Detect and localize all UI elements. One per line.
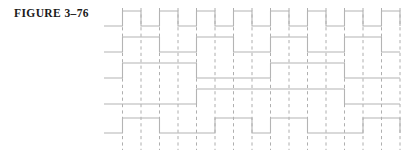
waveform-q3 (104, 118, 400, 133)
figure-container: FIGURE 3–76 (0, 0, 418, 156)
waveform-q1 (104, 63, 400, 78)
gridline-group (123, 8, 401, 150)
timing-diagram (0, 0, 418, 156)
waveform-q0 (104, 37, 400, 52)
waveform-clk (104, 11, 400, 26)
